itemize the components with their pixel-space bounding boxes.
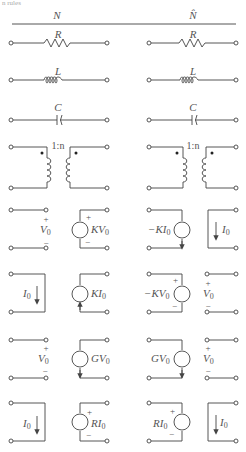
svg-text:−: − [85, 237, 90, 247]
terminal [147, 41, 151, 45]
voltage-source [174, 414, 190, 430]
terminal [9, 118, 13, 122]
svg-text:−: − [42, 366, 47, 376]
svg-text:+: + [170, 406, 175, 416]
terminal [105, 41, 109, 45]
terminal [105, 118, 109, 122]
row-inductor: L L [9, 65, 238, 83]
vcvs-left: + V0 − + KV0 − [9, 208, 109, 250]
row-resistor: R R [9, 28, 238, 47]
terminal [147, 78, 151, 82]
svg-text:−: − [205, 366, 210, 376]
terminal [105, 78, 109, 82]
capacitor-right: C [147, 101, 238, 125]
ccvs-left: I0 + RI0 − [9, 401, 109, 443]
row-cccs: I0 KI0 + −KV0 − + V0 − [9, 272, 238, 314]
voltage-source [72, 222, 88, 238]
svg-text:I0: I0 [221, 223, 230, 237]
current-source [72, 351, 88, 367]
polarity-dot [176, 152, 179, 155]
row-ccvs: I0 + RI0 − + RI0 − I0 [9, 401, 238, 443]
terminal [234, 78, 238, 82]
capacitor-label-left: C [54, 101, 62, 113]
svg-text:I0: I0 [22, 417, 31, 431]
resistor-label-right: R [189, 28, 197, 40]
terminal [9, 78, 13, 82]
voltage-source [174, 286, 190, 302]
terminal [9, 41, 13, 45]
vccs-left: + V0 − GV0 [9, 338, 110, 380]
svg-text:+: + [173, 275, 178, 285]
svg-text:−KI0: −KI0 [148, 223, 170, 237]
row-vccs: + V0 − GV0 GV0 + V0 − [9, 338, 238, 380]
caption-fragment: n rules [2, 0, 21, 7]
vccs-right: GV0 + V0 − [147, 338, 238, 380]
svg-text:I0: I0 [219, 416, 228, 430]
svg-text:V0: V0 [203, 287, 214, 301]
svg-text:KV0: KV0 [90, 223, 109, 237]
svg-text:−: − [205, 301, 210, 311]
svg-text:KI0: KI0 [90, 287, 106, 301]
voltage-source [72, 414, 88, 430]
terminal [147, 118, 151, 122]
svg-text:GV0: GV0 [151, 352, 170, 366]
row-capacitor: C C [9, 101, 238, 125]
svg-text:+: + [87, 407, 92, 417]
inductor-left: L [9, 65, 109, 83]
header-left: N [52, 9, 61, 21]
cccs-left: I0 KI0 [9, 272, 109, 314]
transformer-ratio-right: 1:n [187, 140, 200, 151]
polarity-dot [75, 152, 78, 155]
terminal [234, 118, 238, 122]
terminal [234, 41, 238, 45]
resistor-right: R [147, 28, 238, 47]
cccs-right: + −KV0 − + V0 − [144, 272, 238, 314]
svg-text:V0: V0 [38, 352, 49, 366]
inductor-label-right: L [189, 65, 196, 77]
transformer-left: 1:n [9, 140, 109, 190]
inductor-label-left: L [54, 65, 61, 77]
svg-text:RI0: RI0 [90, 417, 105, 431]
ccvs-right: + RI0 − I0 [147, 401, 238, 443]
transformer-right: 1:n [147, 140, 238, 190]
row-vcvs: + V0 − + KV0 − −KI0 I0 [9, 208, 238, 250]
header-right: N̂ [188, 9, 197, 21]
vcvs-right: −KI0 I0 [147, 208, 238, 250]
svg-text:−: − [169, 429, 174, 439]
current-source [174, 351, 190, 367]
svg-text:−: − [172, 301, 177, 311]
resistor-left: R [9, 28, 109, 47]
polarity-dot [211, 152, 214, 155]
svg-text:RI0: RI0 [152, 417, 167, 431]
svg-text:−: − [43, 238, 48, 248]
polarity-dot [41, 152, 44, 155]
svg-text:GV0: GV0 [91, 352, 110, 366]
svg-text:−: − [86, 430, 91, 440]
current-source [72, 286, 88, 302]
inductor-right: L [147, 65, 238, 83]
row-transformer: 1:n 1:n [9, 140, 238, 190]
current-source [174, 222, 190, 238]
circuit-duality-diagram: n rules N N̂ R R L L [0, 0, 246, 452]
resistor-label-left: R [54, 28, 62, 40]
capacitor-label-right: C [189, 101, 197, 113]
header: n rules N N̂ [2, 0, 236, 24]
svg-text:V0: V0 [40, 223, 51, 237]
svg-text:V0: V0 [203, 352, 214, 366]
transformer-ratio-left: 1:n [52, 140, 65, 151]
svg-text:−KV0: −KV0 [144, 287, 169, 301]
capacitor-left: C [9, 101, 109, 125]
svg-text:I0: I0 [22, 287, 31, 301]
svg-text:+: + [86, 212, 91, 222]
